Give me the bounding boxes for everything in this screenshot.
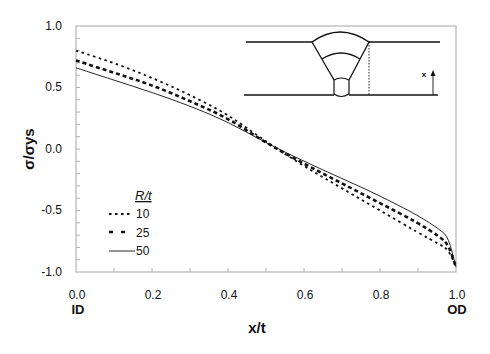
inset-x-label: x — [422, 70, 427, 79]
x-tick-label: 1.0 — [449, 288, 466, 302]
axis-ticks — [76, 38, 418, 272]
x-tick-label: 0.6 — [297, 288, 314, 302]
legend-label-25: 25 — [136, 226, 150, 240]
x-tick-label: 0.0 — [69, 288, 86, 302]
x-tick-label: 0.4 — [221, 288, 238, 302]
root-bead — [334, 80, 349, 97]
chart-canvas: 1.0 0.5 0.0 -0.5 -1.0 0.0 0.2 0.4 0.6 0.… — [0, 0, 490, 354]
id-label: ID — [72, 302, 85, 317]
data-series — [76, 51, 456, 267]
y-axis-title: σ/σys — [20, 128, 37, 169]
od-label: OD — [447, 302, 467, 317]
plot-frame — [76, 26, 456, 272]
weld-schematic-inset — [244, 32, 440, 97]
y-tick-label: -0.5 — [41, 203, 62, 217]
y-tick-label: 1.0 — [45, 19, 62, 33]
weld-pass-arc — [322, 53, 360, 59]
x-tick-label: 0.8 — [373, 288, 390, 302]
groove-left-wall — [312, 42, 334, 80]
root-top-arc — [334, 78, 349, 80]
weld-cap-arc — [312, 32, 369, 42]
series-line-rt-25 — [76, 60, 456, 267]
legend-label-10: 10 — [136, 207, 150, 221]
x-axis-title: x/t — [248, 319, 266, 336]
legend: R/t 10 25 50 — [109, 188, 153, 258]
x-tick-label: 0.2 — [145, 288, 162, 302]
groove-right-wall — [349, 42, 369, 80]
x-arrow-icon — [431, 70, 436, 76]
y-tick-label: 0.0 — [45, 142, 62, 156]
y-tick-label: -1.0 — [41, 265, 62, 279]
legend-label-50: 50 — [136, 244, 150, 258]
legend-title: R/t — [135, 188, 153, 203]
series-line-rt-50 — [76, 68, 456, 267]
y-tick-label: 0.5 — [45, 80, 62, 94]
series-line-rt-10 — [76, 51, 456, 267]
